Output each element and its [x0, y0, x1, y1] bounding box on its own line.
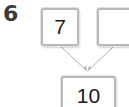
- part-value-left: 7: [54, 15, 66, 39]
- arrow-right-line: [89, 46, 114, 70]
- whole-value: 10: [77, 84, 100, 107]
- arrow-left-line: [60, 46, 86, 70]
- whole-box: 10: [61, 76, 116, 107]
- part-box-left: 7: [41, 8, 79, 46]
- part-box-right-answer[interactable]: [97, 8, 129, 46]
